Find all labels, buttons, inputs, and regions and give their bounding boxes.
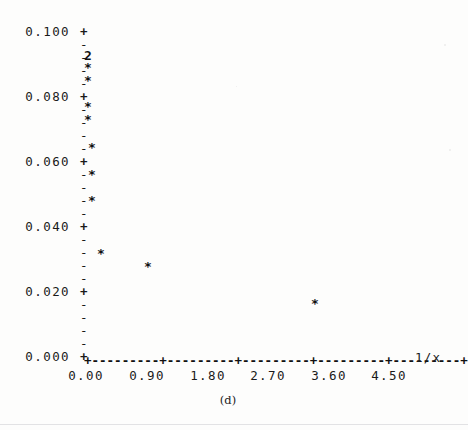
x-axis-tick-label: 0.00 [68,368,104,383]
y-axis-tick-label: 0.000 [8,350,70,363]
x-axis-tick-label: 4.50 [371,368,407,383]
y-axis-tick-label: 0.060 [8,155,70,168]
data-point-marker: * [84,113,92,126]
y-axis-tick-label: 0.100 [8,25,70,38]
data-point-marker: * [311,297,319,310]
y-axis-tick-label: 0.020 [8,285,70,298]
x-axis-tick-label: 3.60 [311,368,347,383]
figure-caption: (d) [0,393,456,407]
figure-panel: 0.100+----0.080+----0.060+----0.040+----… [0,0,468,430]
x-axis-tick-labels: 0.000.901.802.703.604.50 [0,368,468,383]
x-axis-tick-label: 0.90 [129,368,165,383]
x-axis-tick-label: 1.80 [190,368,226,383]
x-axis-line: +---------+---------+---------+---------… [84,355,468,367]
x-axis-tick-label: 2.70 [250,368,286,383]
data-point-marker: * [88,194,96,207]
data-point-marker: * [88,141,96,154]
x-axis-title: 1/x [415,350,441,365]
y-axis-tick-label: 0.040 [8,220,70,233]
scan-speck [444,44,446,46]
scan-speck [236,86,237,87]
scan-speck [449,149,451,151]
data-point-marker: * [88,168,96,181]
data-point-marker: * [97,247,105,260]
data-point-marker: * [144,260,152,273]
data-point-marker: * [84,74,92,87]
y-axis-tick-label: 0.080 [8,90,70,103]
page-edge-line [0,424,468,425]
